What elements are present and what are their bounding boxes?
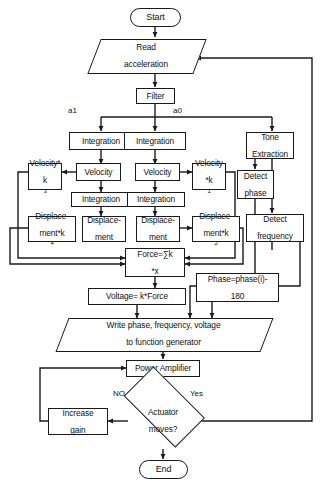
node-detect-frequency-label: Detect frequency bbox=[255, 215, 295, 240]
velk3-line-1: Velocity* bbox=[29, 159, 62, 167]
gain-line-1: Increase bbox=[61, 409, 94, 417]
force-line-1: Force=∑k bbox=[136, 250, 173, 258]
node-velocity-left[interactable]: Velocity bbox=[76, 163, 121, 181]
node-start-label: Start bbox=[145, 13, 166, 22]
gain-line-2: gain bbox=[61, 426, 94, 434]
node-integration-a0-label: Integration bbox=[135, 137, 175, 145]
node-detect-phase[interactable]: Detect phase bbox=[237, 170, 274, 199]
force-line-2: *x bbox=[136, 267, 173, 275]
displ-line-2: ment bbox=[86, 233, 122, 241]
read-line-1: Read bbox=[123, 43, 169, 52]
dispk2-line-2: ment*k bbox=[198, 229, 234, 237]
node-end-label: End bbox=[155, 465, 173, 474]
phase-line-1: Phase=phase(i)- bbox=[207, 275, 269, 283]
detfreq-line-2: frequency bbox=[256, 232, 294, 240]
node-force[interactable]: Force=∑k *x bbox=[125, 248, 185, 277]
tone-line-2: Extraction bbox=[251, 150, 289, 158]
node-write-label: Write phase, frequency, voltage to funct… bbox=[105, 321, 223, 347]
node-velocity-right[interactable]: Velocity bbox=[135, 163, 180, 181]
node-integration-2a[interactable]: Integration bbox=[71, 192, 131, 207]
velk1-line-2: *k bbox=[194, 176, 224, 184]
edge-label-a1: a1 bbox=[68, 106, 77, 115]
write-line-1: Write phase, frequency, voltage bbox=[106, 321, 222, 330]
edge-label-a0-text: a0 bbox=[173, 106, 182, 115]
dispr-line-2: ment bbox=[140, 233, 176, 241]
node-read-acceleration-label: Read acceleration bbox=[122, 43, 170, 69]
node-tone-extraction[interactable]: Tone Extraction bbox=[246, 132, 294, 159]
node-detect-frequency[interactable]: Detect frequency bbox=[246, 214, 304, 242]
velk3-subscript: 3 bbox=[43, 188, 46, 194]
detphase-line-2: phase bbox=[243, 189, 268, 197]
node-phase-label: Phase=phase(i)- 180 bbox=[206, 275, 270, 300]
dispk4-subscript: 4 bbox=[50, 240, 53, 246]
displ-line-1: Displace- bbox=[86, 216, 122, 224]
node-voltage-label: Voltage= k*Force bbox=[105, 292, 169, 300]
node-increase-gain-label: Increase gain bbox=[60, 409, 95, 434]
node-displacement-right-label: Displace- ment bbox=[139, 216, 177, 241]
actuator-line-1: Actuator bbox=[147, 408, 179, 416]
node-write-function-generator[interactable]: Write phase, frequency, voltage to funct… bbox=[62, 318, 265, 350]
node-velocity-k3[interactable]: Velocity* k3 bbox=[28, 163, 62, 190]
dispk4-line-2: ment*k bbox=[34, 229, 70, 237]
node-power-amplifier[interactable]: Power Amplifier bbox=[126, 360, 200, 377]
dispr-line-1: Displace- bbox=[140, 216, 176, 224]
node-increase-gain[interactable]: Increase gain bbox=[48, 408, 108, 435]
node-integration-2b-label: Integration bbox=[136, 195, 176, 203]
node-velocity-k3-label: Velocity* k3 bbox=[28, 159, 63, 194]
node-phase[interactable]: Phase=phase(i)- 180 bbox=[196, 273, 279, 302]
node-displacement-k4-label: Displace- ment*k4 bbox=[33, 212, 71, 247]
tone-line-1: Tone bbox=[251, 133, 289, 141]
node-integration-a1-label: Integration bbox=[81, 137, 121, 145]
velk3-line-2: k bbox=[29, 176, 62, 184]
node-displacement-k2-label: Displace- ment*k2 bbox=[197, 212, 235, 247]
node-power-amplifier-label: Power Amplifier bbox=[134, 364, 192, 372]
node-actuator-moves-decision[interactable]: Actuator moves? bbox=[113, 393, 213, 449]
node-displacement-k4[interactable]: Displace- ment*k4 bbox=[28, 216, 76, 242]
actuator-line-2: moves? bbox=[147, 425, 179, 433]
node-velocity-k1-label: Velocity *k1 bbox=[193, 159, 225, 194]
node-read-acceleration[interactable]: Read acceleration bbox=[94, 39, 198, 72]
node-filter-label: Filter bbox=[146, 92, 166, 100]
read-line-2: acceleration bbox=[123, 60, 169, 69]
edge-label-a0: a0 bbox=[173, 106, 182, 115]
node-displacement-left-label: Displace- ment bbox=[85, 216, 123, 241]
node-displacement-left[interactable]: Displace- ment bbox=[82, 216, 126, 242]
node-end[interactable]: End bbox=[139, 460, 188, 479]
node-displacement-right[interactable]: Displace- ment bbox=[136, 216, 180, 242]
node-force-label: Force=∑k *x bbox=[135, 250, 174, 275]
node-filter[interactable]: Filter bbox=[136, 88, 175, 104]
node-velocity-right-label: Velocity bbox=[143, 168, 173, 176]
node-integration-2a-label: Integration bbox=[81, 195, 121, 203]
node-velocity-k1[interactable]: Velocity *k1 bbox=[192, 163, 226, 190]
velk1-line-1: Velocity bbox=[194, 159, 224, 167]
write-line-2: to function generator bbox=[106, 338, 222, 347]
node-detect-phase-label: Detect phase bbox=[242, 172, 269, 197]
node-actuator-moves-label: Actuator moves? bbox=[146, 408, 180, 433]
flowchart-canvas: Start Read acceleration Filter a1 a0 Int… bbox=[0, 0, 326, 485]
node-start[interactable]: Start bbox=[130, 8, 181, 27]
dispk4-line-1: Displace- bbox=[34, 212, 70, 220]
node-velocity-left-label: Velocity bbox=[84, 168, 114, 176]
detphase-line-1: Detect bbox=[243, 172, 268, 180]
phase-line-2: 180 bbox=[207, 292, 269, 300]
edge-label-a1-text: a1 bbox=[68, 106, 77, 115]
node-integration-a0[interactable]: Integration bbox=[124, 132, 186, 150]
velk1-subscript: 1 bbox=[207, 188, 210, 194]
node-tone-extraction-label: Tone Extraction bbox=[250, 133, 290, 158]
node-voltage[interactable]: Voltage= k*Force bbox=[88, 288, 186, 305]
dispk2-line-1: Displace- bbox=[198, 212, 234, 220]
dispk2-subscript: 2 bbox=[214, 240, 217, 246]
node-displacement-k2[interactable]: Displace- ment*k2 bbox=[192, 216, 240, 242]
node-integration-2b[interactable]: Integration bbox=[127, 192, 185, 207]
detfreq-line-1: Detect bbox=[256, 215, 294, 223]
